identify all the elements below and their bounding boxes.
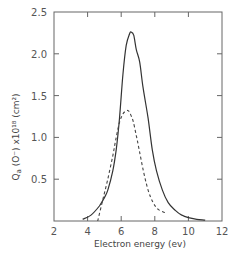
axis-ticks [54, 12, 222, 221]
x-tick-label: 6 [118, 226, 124, 237]
x-axis-title: Electron energy (ev) [94, 239, 186, 249]
y-title-main: Q [11, 173, 21, 180]
x-tick-label: 10 [182, 226, 195, 237]
y-tick-label: 2.0 [31, 49, 47, 60]
x-tick-label: 4 [84, 226, 90, 237]
plot-frame [54, 12, 222, 221]
cross-section-chart: 24681012 0.51.01.52.02.5 Electron energy… [0, 0, 237, 258]
y-tick-label: 1.5 [31, 91, 47, 102]
solid-curve [83, 32, 206, 220]
y-tick-label: 0.5 [31, 174, 47, 185]
x-tick-label: 8 [152, 226, 158, 237]
x-tick-label: 12 [216, 226, 229, 237]
x-tick-labels: 24681012 [51, 226, 229, 237]
y-tick-labels: 0.51.01.52.02.5 [31, 7, 47, 185]
x-tick-label: 2 [51, 226, 57, 237]
y-tick-label: 1.0 [31, 132, 47, 143]
y-title-rest: (O⁻) x10¹⁸ (cm²) [11, 93, 21, 169]
y-tick-label: 2.5 [31, 7, 47, 18]
y-axis-title: Qa (O⁻) x10¹⁸ (cm²) [11, 93, 23, 180]
